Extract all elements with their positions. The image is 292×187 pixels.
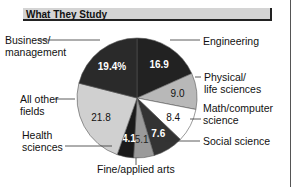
label-physical-line2: life sciences — [204, 84, 261, 95]
slice-value-label: 5.1 — [135, 134, 149, 145]
label-physical-line1: Physical/ — [204, 72, 246, 83]
label-other-line1: All other — [20, 94, 59, 105]
slice-value-label: 19.4% — [98, 61, 126, 72]
label-social: Social science — [203, 136, 270, 147]
slice-value-label: 8.4 — [166, 112, 180, 123]
label-business-line2: management — [5, 47, 66, 58]
label-engineering: Engineering — [203, 36, 259, 47]
label-business-line1: Business/ — [5, 35, 51, 46]
label-math-line2: science — [203, 115, 239, 126]
label-health-line1: Health — [22, 130, 52, 141]
slice-value-label: 16.9 — [149, 59, 169, 70]
slice-value-label: 21.8 — [91, 112, 111, 123]
label-other-line2: fields — [20, 106, 45, 117]
slice-value-label: 9.0 — [171, 88, 185, 99]
label-health-line2: sciences — [22, 142, 63, 153]
label-math-line1: Math/computer — [203, 103, 273, 114]
slice-value-label: 7.6 — [151, 128, 165, 139]
label-fine-arts: Fine/applied arts — [97, 164, 175, 175]
